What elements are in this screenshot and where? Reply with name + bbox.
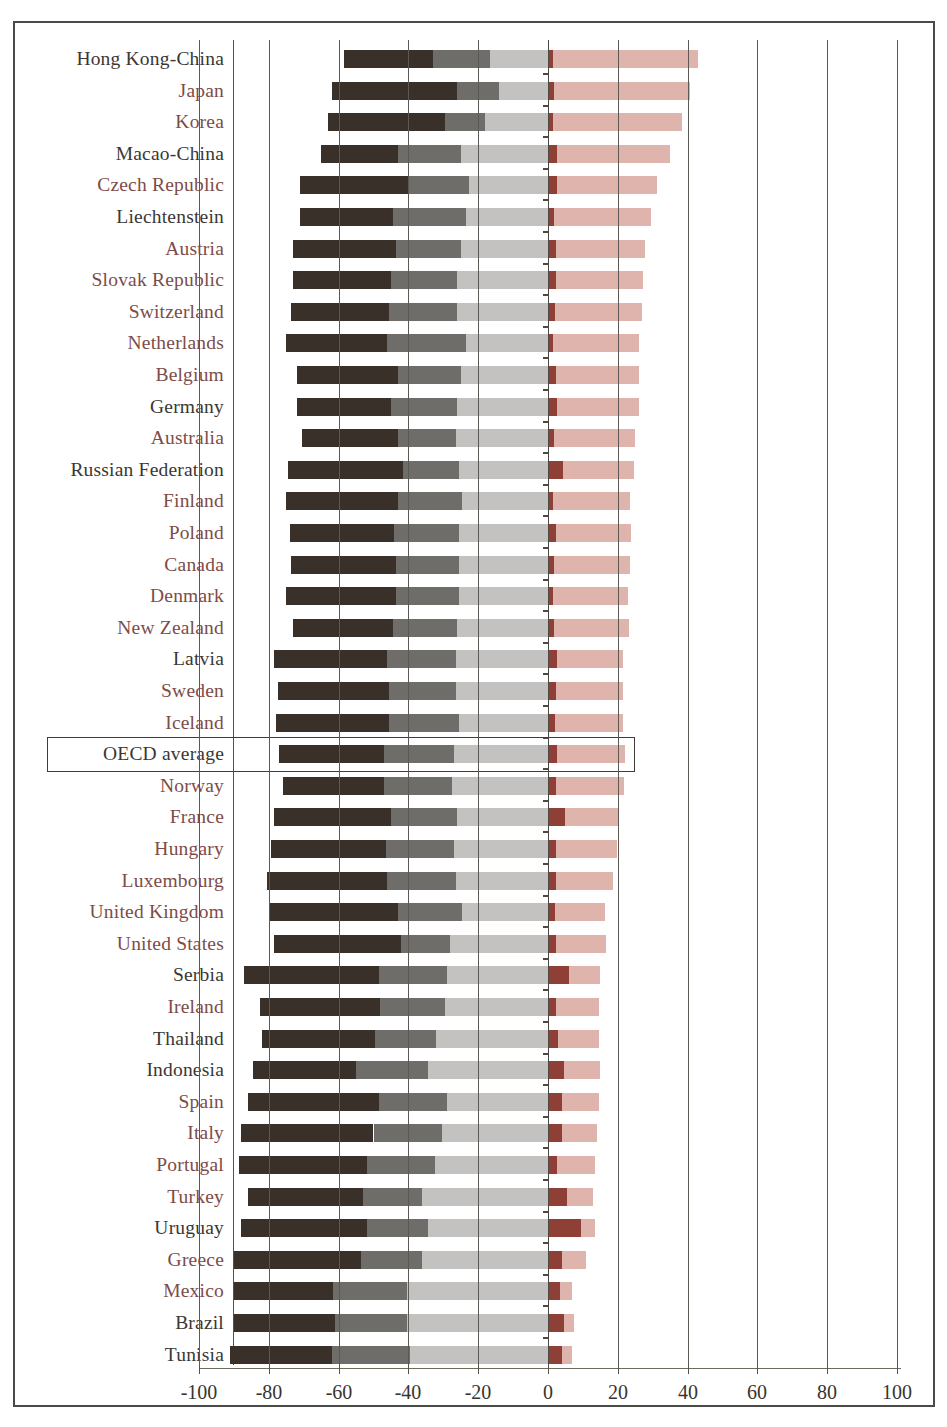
bar-segment-level-1 — [554, 429, 634, 447]
bar-segment-below-level-1 — [548, 1219, 581, 1237]
bar-segment-level-2 — [286, 492, 398, 510]
bar-row — [0, 682, 947, 700]
bar-segment-level-4 — [459, 524, 548, 542]
gridline--80 — [269, 40, 270, 1365]
bar-row — [0, 208, 947, 226]
bar-row — [0, 303, 947, 321]
bar-segment-below-level-1 — [548, 1156, 557, 1174]
bar-segment-level-1 — [555, 303, 642, 321]
bar-segment-level-4 — [447, 966, 548, 984]
x-tick-label: -60 — [304, 1381, 374, 1404]
bar-segment-level-2 — [234, 1314, 335, 1332]
bar-segment-level-4 — [442, 1124, 548, 1142]
bar-segment-level-4 — [456, 872, 548, 890]
bar-segment-level-4 — [456, 650, 548, 668]
bar-segment-level-2 — [291, 556, 396, 574]
x-tick-label: 60 — [722, 1381, 792, 1404]
bar-segment-level-1 — [557, 398, 639, 416]
bar-segment-level-2 — [297, 366, 398, 384]
bar-segment-level-4 — [461, 240, 548, 258]
bar-row — [0, 1282, 947, 1300]
bar-segment-level-2 — [328, 113, 445, 131]
bar-segment-level-3 — [387, 334, 466, 352]
bar-segment-level-1 — [555, 714, 623, 732]
bar-segment-level-3 — [396, 556, 459, 574]
bar-segment-level-2 — [291, 303, 389, 321]
bar-segment-level-3 — [335, 1314, 407, 1332]
bar-row — [0, 650, 947, 668]
bar-segment-below-level-1 — [548, 398, 557, 416]
bar-row — [0, 777, 947, 795]
bar-segment-level-2 — [274, 808, 391, 826]
bar-segment-level-2 — [278, 682, 390, 700]
bar-segment-level-3 — [332, 1346, 411, 1364]
bar-segment-level-3 — [389, 303, 457, 321]
bar-segment-level-4 — [450, 935, 548, 953]
bar-segment-level-4 — [461, 145, 548, 163]
gridline-20 — [618, 40, 619, 1365]
bar-segment-level-2 — [276, 714, 389, 732]
bar-segment-below-level-1 — [548, 1251, 562, 1269]
bar-segment-level-1 — [556, 682, 622, 700]
bar-segment-level-2 — [300, 176, 408, 194]
bar-segment-level-4 — [457, 808, 548, 826]
bar-segment-level-4 — [436, 1030, 548, 1048]
bar-segment-level-4 — [499, 82, 548, 100]
bar-row — [0, 1314, 947, 1332]
bar-segment-level-3 — [391, 398, 457, 416]
bar-segment-level-3 — [333, 1282, 406, 1300]
x-axis-line — [199, 1368, 901, 1369]
bar-segment-level-3 — [387, 650, 455, 668]
bar-segment-level-4 — [445, 998, 548, 1016]
bar-segment-level-1 — [558, 1030, 598, 1048]
bar-segment-level-1 — [553, 50, 698, 68]
bar-segment-level-1 — [564, 1061, 601, 1079]
bar-segment-level-2 — [288, 461, 403, 479]
bar-segment-level-1 — [556, 998, 600, 1016]
bar-segment-below-level-1 — [548, 461, 563, 479]
bar-segment-level-4 — [459, 556, 548, 574]
bar-segment-level-1 — [562, 1346, 572, 1364]
bar-segment-level-4 — [457, 398, 548, 416]
bar-row — [0, 492, 947, 510]
bar-segment-level-4 — [454, 840, 548, 858]
bar-segment-level-3 — [367, 1156, 435, 1174]
bar-segment-level-3 — [379, 1093, 447, 1111]
bar-row — [0, 1219, 947, 1237]
bar-segment-below-level-1 — [548, 240, 556, 258]
bar-segment-level-2 — [244, 966, 378, 984]
bar-segment-level-4 — [422, 1188, 548, 1206]
bar-row — [0, 334, 947, 352]
bar-segment-level-1 — [556, 271, 643, 289]
bar-segment-below-level-1 — [548, 1346, 562, 1364]
bar-segment-level-3 — [384, 777, 452, 795]
bar-segment-below-level-1 — [548, 840, 556, 858]
bar-segment-level-2 — [239, 1156, 366, 1174]
bar-segment-level-4 — [428, 1219, 548, 1237]
bar-segment-level-2 — [300, 208, 392, 226]
bar-segment-level-2 — [274, 650, 387, 668]
bar-segment-below-level-1 — [548, 808, 565, 826]
bar-segment-level-4 — [459, 714, 548, 732]
bar-row — [0, 271, 947, 289]
bar-row — [0, 145, 947, 163]
bar-segment-level-3 — [389, 682, 455, 700]
bar-segment-below-level-1 — [548, 1124, 562, 1142]
gridline--20 — [478, 40, 479, 1365]
bar-segment-below-level-1 — [548, 1030, 558, 1048]
bar-segment-level-4 — [462, 903, 548, 921]
bar-row — [0, 524, 947, 542]
x-tick-label: 20 — [583, 1381, 653, 1404]
bar-segment-below-level-1 — [548, 1093, 562, 1111]
bar-segment-level-1 — [563, 461, 635, 479]
bar-row — [0, 903, 947, 921]
bar-segment-level-4 — [457, 619, 548, 637]
bar-segment-level-3 — [375, 1030, 436, 1048]
bar-segment-below-level-1 — [548, 176, 557, 194]
bar-segment-level-1 — [564, 1314, 574, 1332]
bar-row — [0, 587, 947, 605]
bar-segment-level-4 — [469, 176, 548, 194]
bar-row — [0, 556, 947, 574]
bar-segment-level-3 — [445, 113, 485, 131]
bar-segment-level-1 — [557, 1156, 595, 1174]
